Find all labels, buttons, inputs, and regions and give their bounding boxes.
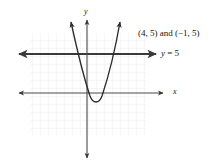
line-equation-rest: = 5: [165, 48, 179, 58]
intersection-points-annotation: (4, 5) and (−1, 5): [138, 29, 200, 38]
y-axis-label: y: [84, 8, 88, 16]
line-equation-label: y = 5: [161, 49, 179, 58]
graph-figure: x y y = 5 (4, 5) and (−1, 5): [0, 0, 217, 168]
coordinate-plane-svg: [0, 0, 217, 168]
background-grid: [30, 33, 146, 135]
x-axis-label: x: [173, 88, 177, 96]
